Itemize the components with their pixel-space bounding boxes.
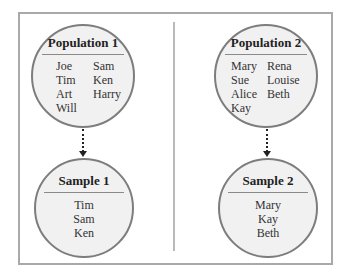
- population-2-title: Population 2: [216, 35, 316, 51]
- name: Kay: [220, 212, 316, 226]
- arrowhead-icon: [263, 151, 271, 157]
- name: Mary: [220, 198, 316, 212]
- name: Sam: [36, 212, 132, 226]
- sample-1-members: Tim Sam Ken: [36, 198, 132, 240]
- sample-1-title: Sample 1: [36, 173, 132, 189]
- name: Harry: [93, 87, 121, 101]
- name: Beth: [267, 87, 300, 101]
- title-rule: [228, 192, 308, 193]
- name: Alice: [231, 87, 257, 101]
- name: Ken: [36, 226, 132, 240]
- sample-2-members: Mary Kay Beth: [220, 198, 316, 240]
- name: Rena: [267, 59, 300, 73]
- sampling-arrow-2: [266, 129, 270, 152]
- population-1-circle: Population 1 Joe Tim Art Will Sam Ken Ha…: [31, 24, 135, 128]
- name: Beth: [220, 226, 316, 240]
- name: Kay: [231, 101, 257, 115]
- sample-2-circle: Sample 2 Mary Kay Beth: [218, 158, 318, 258]
- name: Louise: [267, 73, 300, 87]
- title-rule: [42, 54, 124, 55]
- title-rule: [225, 54, 307, 55]
- name: Tim: [56, 73, 77, 87]
- population-2-circle: Population 2 Mary Sue Alice Kay Rena Lou…: [214, 24, 318, 128]
- name: Art: [56, 87, 77, 101]
- name: Ken: [93, 73, 121, 87]
- arrowhead-icon: [79, 151, 87, 157]
- panel-divider: [173, 22, 175, 251]
- sample-2-title: Sample 2: [220, 173, 316, 189]
- name: Will: [56, 101, 77, 115]
- population-1-title: Population 1: [33, 35, 133, 51]
- name: Joe: [56, 59, 77, 73]
- name: Sam: [93, 59, 121, 73]
- title-rule: [44, 192, 124, 193]
- sampling-arrow-1: [82, 129, 86, 152]
- name: Sue: [231, 73, 257, 87]
- name: Tim: [36, 198, 132, 212]
- sample-1-circle: Sample 1 Tim Sam Ken: [34, 158, 134, 258]
- name: Mary: [231, 59, 257, 73]
